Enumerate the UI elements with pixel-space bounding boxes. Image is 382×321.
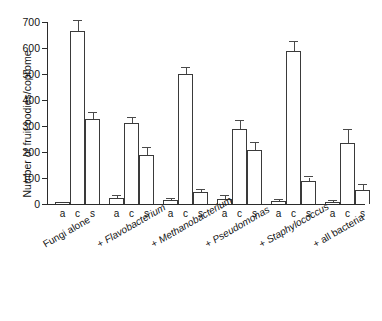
subcategory-label: a	[109, 208, 124, 219]
category-label: Fungi alone	[41, 214, 92, 250]
bar	[109, 198, 124, 204]
bar	[139, 155, 154, 204]
y-tick-label: 600	[22, 42, 40, 54]
bar-group	[325, 22, 370, 204]
bar	[301, 181, 316, 204]
bar-group	[163, 22, 208, 204]
error-bar-cap	[328, 200, 337, 201]
bar	[178, 74, 193, 204]
error-bar-cap	[127, 117, 136, 118]
bar	[232, 129, 247, 204]
error-bar-cap	[196, 189, 205, 190]
bar	[286, 51, 301, 204]
error-bar-cap	[142, 147, 151, 148]
y-tick-label: 700	[22, 16, 40, 28]
error-bar-cap	[250, 142, 259, 143]
y-tick-label: 200	[22, 146, 40, 158]
error-bar-cap	[235, 120, 244, 121]
subcategory-label: a	[271, 208, 286, 219]
bar	[55, 202, 70, 204]
bar-group	[109, 22, 154, 204]
y-tick-label: 100	[22, 172, 40, 184]
y-tick-mark	[42, 22, 47, 23]
bar	[193, 192, 208, 204]
bar-group	[271, 22, 316, 204]
y-tick-mark	[42, 100, 47, 101]
error-bar-cap	[73, 20, 82, 21]
bar	[271, 201, 286, 204]
error-bar-cap	[289, 41, 298, 42]
y-tick-mark	[42, 204, 47, 205]
y-tick-mark	[42, 74, 47, 75]
y-tick-label: 500	[22, 68, 40, 80]
bar	[85, 119, 100, 204]
y-tick-label: 400	[22, 94, 40, 106]
bar	[124, 123, 139, 204]
error-bar-cap	[88, 112, 97, 113]
y-tick-mark	[42, 48, 47, 49]
bar-group	[217, 22, 262, 204]
bar	[163, 200, 178, 204]
error-bar-cap	[304, 176, 313, 177]
error-bar-cap	[358, 184, 367, 185]
bar	[247, 150, 262, 204]
bar-chart: Number of fruit bodies/coprome 010020030…	[0, 0, 382, 321]
y-axis-line	[47, 22, 48, 205]
error-bar-cap	[343, 129, 352, 130]
bar	[355, 190, 370, 204]
error-bar-cap	[112, 195, 121, 196]
plot-area: 0100200300400500600700	[47, 22, 365, 204]
error-bar-cap	[274, 199, 283, 200]
error-bar-cap	[166, 198, 175, 199]
y-tick-mark	[42, 178, 47, 179]
bar-group	[55, 22, 100, 204]
y-tick-mark	[42, 126, 47, 127]
y-tick-label: 0	[34, 198, 40, 210]
bar	[340, 143, 355, 204]
y-tick-label: 300	[22, 120, 40, 132]
bar	[70, 31, 85, 204]
subcategory-label: a	[55, 208, 70, 219]
error-bar-cap	[181, 67, 190, 68]
y-tick-mark	[42, 152, 47, 153]
